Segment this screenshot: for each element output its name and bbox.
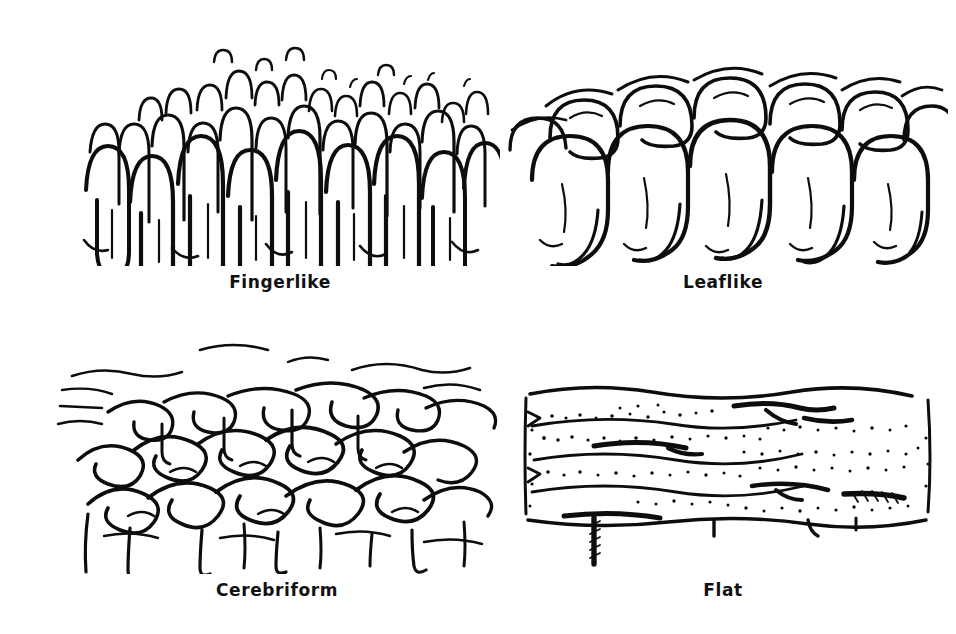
flat-mucosa-drawing — [508, 368, 938, 568]
panel-flat: Flat — [508, 368, 938, 620]
panel-fingerlike: Fingerlike — [60, 34, 500, 304]
panel-caption-flat: Flat — [508, 580, 938, 600]
leaflike-villi-drawing — [498, 44, 948, 266]
panel-leaflike: Leaflike — [498, 44, 948, 306]
panel-caption-leaflike: Leaflike — [498, 272, 948, 292]
panel-cerebriform: Cerebriform — [52, 332, 502, 622]
fingerlike-villi-drawing — [60, 34, 500, 266]
panel-caption-fingerlike: Fingerlike — [60, 272, 500, 292]
cerebriform-villi-drawing — [52, 332, 502, 574]
panel-caption-cerebriform: Cerebriform — [52, 580, 502, 600]
figure-root: Fingerlike — [0, 0, 956, 634]
